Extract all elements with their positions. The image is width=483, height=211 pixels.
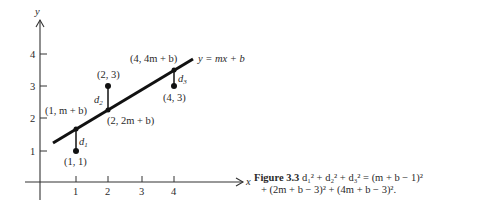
- x-axis-label: x: [245, 176, 251, 187]
- label-data-point-4-3: (4, 3): [163, 92, 186, 104]
- y-tick-1: 1: [30, 146, 35, 157]
- label-d2: d2: [94, 94, 103, 107]
- line-equation-label: y = mx + b: [197, 53, 245, 64]
- caption-equation-part-1: d₁² + d₂² + d₃² = (m + b − 1)²: [302, 172, 423, 183]
- y-tick-4: 4: [30, 49, 36, 60]
- caption-line-2: + (2m + b − 3)² + (4m + b − 3)².: [254, 184, 423, 196]
- least-squares-figure: x 1 2 3 4 y 4 3 2 1 y = mx: [0, 0, 483, 211]
- label-line-point-2: (2, 2m + b): [107, 115, 155, 127]
- y-axis: y 4 3 2 1: [30, 6, 47, 200]
- y-tick-3: 3: [30, 81, 35, 92]
- label-data-point-2-3: (2, 3): [97, 69, 120, 81]
- line-point-4: [172, 68, 177, 73]
- line-point-2: [106, 108, 111, 113]
- x-tick-3: 3: [139, 186, 144, 197]
- figure-number: Figure 3.3: [254, 172, 299, 183]
- y-tick-2: 2: [30, 113, 35, 124]
- x-tick-1: 1: [73, 186, 78, 197]
- caption-line-1: Figure 3.3 d₁² + d₂² + d₃² = (m + b − 1)…: [254, 172, 423, 184]
- label-line-point-4: (4, 4m + b): [130, 53, 178, 65]
- line-point-1: [74, 127, 79, 132]
- label-d1: d1: [79, 136, 88, 149]
- figure-caption: Figure 3.3 d₁² + d₂² + d₃² = (m + b − 1)…: [254, 172, 423, 196]
- x-tick-2: 2: [105, 186, 110, 197]
- data-point-4-3: [171, 83, 177, 89]
- x-axis: x 1 2 3 4: [25, 176, 251, 197]
- label-d3: d3: [178, 73, 187, 86]
- x-tick-4: 4: [171, 186, 177, 197]
- data-point-1-1: [73, 148, 79, 154]
- y-axis-label: y: [34, 6, 40, 17]
- label-line-point-1: (1, m + b): [45, 105, 88, 117]
- label-data-point-1-1: (1, 1): [64, 156, 87, 168]
- data-point-2-3: [105, 83, 111, 89]
